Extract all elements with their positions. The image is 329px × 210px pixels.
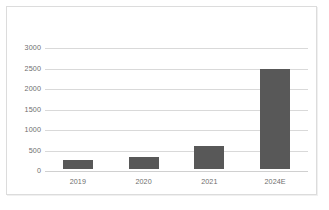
y-axis: 050010001500200025003000: [15, 7, 41, 194]
chart-frame: 050010001500200025003000 201920202021202…: [6, 6, 317, 195]
x-axis-tick-label: 2021: [177, 178, 243, 185]
x-axis: 2019202020212024E: [45, 7, 308, 194]
y-axis-tick-label: 0: [15, 167, 41, 174]
chart-plot-wrapper: 050010001500200025003000 201920202021202…: [7, 7, 316, 194]
x-axis-tick-label: 2020: [111, 178, 177, 185]
x-axis-tick-label: 2024E: [242, 178, 308, 185]
y-axis-tick-label: 1500: [15, 106, 41, 113]
y-axis-tick-label: 2000: [15, 85, 41, 92]
y-axis-tick-label: 2500: [15, 65, 41, 72]
x-axis-tick-label: 2019: [45, 178, 111, 185]
y-axis-tick-label: 3000: [15, 44, 41, 51]
y-axis-tick-label: 1000: [15, 126, 41, 133]
y-axis-tick-label: 500: [15, 147, 41, 154]
